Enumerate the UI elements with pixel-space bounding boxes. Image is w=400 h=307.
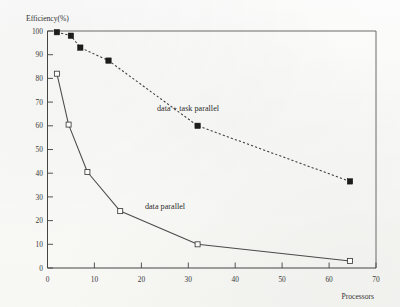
x-axis-title: Processors [342,292,375,301]
x-tick-label: 30 [185,275,193,284]
data-point-marker [85,170,90,175]
y-tick-label: 70 [36,98,44,107]
y-tick-label: 90 [36,50,44,59]
y-tick-label: 60 [36,121,44,130]
efficiency-line-chart: 100 90 80 70 60 50 40 30 20 10 0 0 10 20 [0,0,400,307]
data-point-marker [68,33,73,38]
x-axis-tick-labels: 0 10 20 30 40 50 60 70 [46,275,380,284]
series-data-parallel: data parallel [54,71,352,263]
data-point-marker [195,123,200,128]
y-tick-label: 0 [39,264,43,273]
x-tick-label: 0 [46,275,50,284]
series-label-data-task-parallel: data + task parallel [157,104,220,113]
data-point-marker [118,209,123,214]
x-tick-label: 20 [138,275,146,284]
y-tick-label: 100 [32,27,43,36]
data-point-marker [106,58,111,63]
data-point-marker [347,179,352,184]
y-axis-tick-labels: 100 90 80 70 60 50 40 30 20 10 0 [32,27,43,273]
y-tick-label: 10 [36,240,44,249]
data-point-marker [78,45,83,50]
x-tick-label: 70 [372,275,380,284]
y-axis-title: Efficiency(%) [26,14,69,23]
data-point-marker [66,122,71,127]
data-point-marker [54,30,59,35]
series-line-solid [57,74,350,261]
y-tick-label: 40 [36,169,44,178]
x-tick-label: 50 [278,275,286,284]
data-point-marker [348,258,353,263]
data-point-marker [54,71,59,76]
y-tick-label: 20 [36,216,44,225]
chart-screenshot: 100 90 80 70 60 50 40 30 20 10 0 0 10 20 [0,0,400,307]
series-label-data-parallel: data parallel [145,202,186,211]
y-tick-label: 80 [36,74,44,83]
x-tick-label: 40 [232,275,240,284]
plot-frame [48,31,377,268]
x-tick-label: 60 [325,275,333,284]
x-tick-label: 10 [91,275,99,284]
series-data-task-parallel: data + task parallel [54,30,352,185]
y-tick-label: 30 [36,193,44,202]
x-axis-ticks [48,263,377,269]
y-tick-label: 50 [36,145,44,154]
y-axis-ticks [48,31,54,268]
data-point-marker [195,242,200,247]
